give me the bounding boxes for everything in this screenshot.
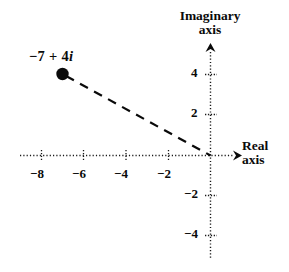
x-tick-label-neg6: −6	[72, 167, 86, 181]
plotted-point-marker	[56, 68, 68, 80]
y-tick-label-2: 2	[191, 106, 198, 120]
y-tick-label-neg2: −2	[184, 187, 198, 201]
y-tick-label-4: 4	[191, 66, 198, 80]
imaginary-axis-line	[206, 43, 216, 259]
vector-dashed-segment	[66, 76, 211, 156]
x-tick-label-neg4: −4	[114, 167, 128, 181]
x-tick-label-neg8: −8	[30, 167, 44, 181]
plot-canvas	[0, 0, 289, 272]
point-label-imaginary-unit: i	[69, 48, 73, 64]
real-axis-title-line2: axis	[242, 153, 288, 167]
real-axis-title: Real axis	[242, 139, 288, 167]
point-label: −7 + 4i	[29, 49, 73, 64]
complex-plane-figure: Imaginary axis Real axis −7 + 4i −8 −6 −…	[0, 0, 289, 272]
x-tick-label-neg2: −2	[157, 167, 171, 181]
imaginary-axis-title: Imaginary axis	[155, 9, 265, 37]
real-axis-title-line1: Real	[242, 139, 288, 153]
y-tick-label-neg4: −4	[184, 227, 198, 241]
point-label-text: −7 + 4	[29, 48, 69, 64]
imaginary-axis-arrowhead	[206, 43, 216, 52]
imaginary-axis-title-line2: axis	[155, 23, 265, 37]
imaginary-axis-title-line1: Imaginary	[155, 9, 265, 23]
real-axis-arrowhead	[233, 151, 242, 161]
